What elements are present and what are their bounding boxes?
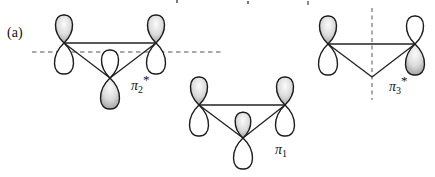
- stray-mark-artifact: [247, 1, 249, 4]
- atom-p-orbital: [319, 16, 338, 75]
- shaded-lobe-up: [147, 15, 164, 43]
- shaded-lobe-down: [101, 78, 120, 109]
- atom-p-orbital: [55, 15, 74, 74]
- white-lobe-up: [406, 16, 423, 44]
- subscript: 1: [282, 148, 287, 159]
- molecular-orbital-diagram: (a) π2*: [0, 0, 435, 177]
- atom-p-orbital: [101, 50, 120, 109]
- orbital-structure-pi3-star: π3*: [319, 8, 425, 100]
- shaded-lobe-up: [55, 15, 72, 43]
- atom-p-orbital: [406, 16, 425, 75]
- pi3-star-label: π3*: [389, 73, 408, 96]
- white-lobe-down: [234, 138, 253, 169]
- pi2-star-label: π2*: [131, 72, 150, 95]
- orbital-structure-pi1: π1: [190, 77, 295, 169]
- stray-mark-artifact: [176, 0, 178, 3]
- panel-label: (a): [7, 25, 23, 41]
- shaded-lobe-up: [276, 77, 293, 105]
- asterisk: *: [143, 72, 150, 87]
- atom-p-orbital: [276, 77, 295, 136]
- shaded-lobe-up: [190, 77, 207, 105]
- stray-mark-artifact: [307, 1, 309, 5]
- molecular-orbital-figure: (a) π2*: [0, 0, 435, 177]
- atom-p-orbital: [234, 112, 253, 169]
- atom-p-orbital: [147, 15, 166, 74]
- pi1-label: π1: [275, 142, 287, 159]
- atom-p-orbital: [190, 77, 209, 136]
- asterisk: *: [401, 73, 408, 88]
- shaded-lobe-up: [319, 16, 336, 44]
